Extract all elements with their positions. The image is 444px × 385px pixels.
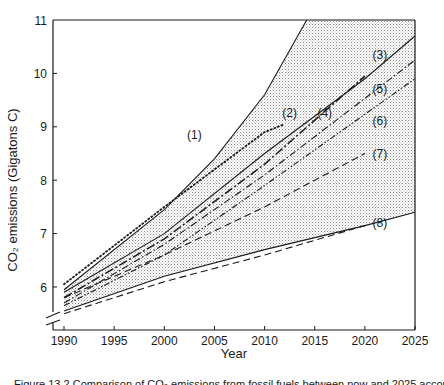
series-label-2: (2) [282, 106, 297, 120]
y-tick-label: 8 [40, 174, 47, 188]
x-axis-title: Year [221, 346, 248, 361]
y-tick-label: 6 [40, 281, 47, 295]
y-tick-label: 10 [34, 67, 48, 81]
y-tick-label: 9 [40, 120, 47, 134]
axis-break-mark [46, 312, 60, 318]
series-label-3: (3) [373, 48, 388, 62]
x-tick-label: 2000 [151, 334, 178, 348]
series-label-7: (7) [373, 147, 388, 161]
x-tick-label: 2010 [251, 334, 278, 348]
x-tick-label: 1995 [101, 334, 128, 348]
y-tick-label: 11 [35, 14, 48, 28]
figure-caption: Figure 13.2 Comparison of CO₂ emissions … [14, 376, 444, 385]
y-axis-title: CO₂ emissions (Gigatons C) [5, 108, 20, 271]
x-tick-label: 2015 [301, 334, 328, 348]
x-tick-label: 2025 [402, 334, 429, 348]
series-label-1: (1) [187, 128, 202, 142]
x-tick-label: 1990 [51, 334, 78, 348]
series-label-8: (8) [373, 216, 388, 230]
y-tick-label: 7 [40, 227, 47, 241]
co2-emissions-chart: 6789101119901995200020052010201520202025… [0, 0, 440, 376]
series-label-5: (5) [373, 82, 388, 96]
x-tick-label: 2020 [352, 334, 379, 348]
series-label-4: (4) [317, 106, 332, 120]
series-label-6: (6) [373, 114, 388, 128]
